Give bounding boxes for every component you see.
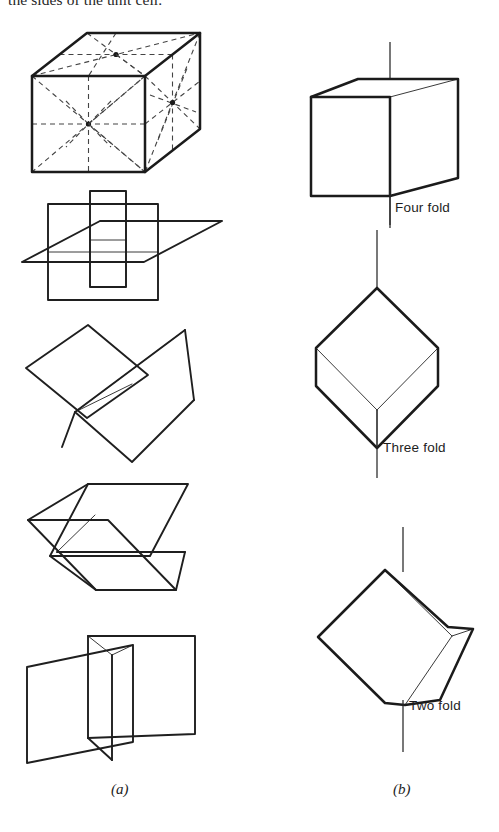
right-face-centre-point <box>170 100 175 105</box>
cube-with-dashed-symmetry-planes <box>32 33 200 172</box>
panel-a-caption: (a) <box>111 781 129 798</box>
figure-page: the sides of the unit cell. <box>0 0 499 832</box>
two-fold-label: Two fold <box>409 698 461 713</box>
two-intersecting-parallelogram-planes <box>4 484 188 590</box>
two-perpendicular-vertical-planes <box>27 636 195 763</box>
cube-two-fold-axis: Two fold <box>318 527 473 752</box>
figure-canvas: Four fold Three fold <box>0 0 499 832</box>
two-intersecting-diagonal-planes-upper <box>26 325 194 462</box>
three-mutually-perpendicular-planes <box>22 191 222 300</box>
panel-b-caption: (b) <box>393 781 411 798</box>
three-fold-label: Three fold <box>383 440 446 455</box>
four-fold-label: Four fold <box>395 200 450 215</box>
cube-four-fold-axis: Four fold <box>311 42 458 228</box>
cube-three-fold-axis: Three fold <box>316 230 446 478</box>
